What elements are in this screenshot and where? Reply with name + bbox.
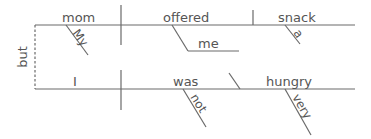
clause-2-subject: I [73,74,77,89]
sentence-diagram: but mom My offered me snack a [0,0,371,139]
clause-2-predicate-adjective-divider [229,73,240,89]
clause-2-predicate-adjective-modifier: very [289,92,314,122]
conjunction-label: but [15,46,30,68]
clause-1-indirect-object: me [198,36,219,51]
clause-1-subject-modifier: My [70,27,92,49]
clause-2: I was not hungry very [35,70,355,135]
clause-1: mom My offered me snack a [35,5,355,55]
clause-2-verb-modifier: not [187,91,209,115]
clause-1-direct-object: snack [278,10,316,25]
clause-1-verb: offered [163,10,209,25]
clause-1-direct-object-modifier: a [291,27,307,41]
clause-2-verb: was [173,74,199,89]
clause-1-subject: mom [62,10,95,25]
conjunction-group: but [15,25,35,89]
clause-2-predicate-adjective: hungry [266,74,312,89]
clause-1-indirect-object-slant [172,25,188,51]
